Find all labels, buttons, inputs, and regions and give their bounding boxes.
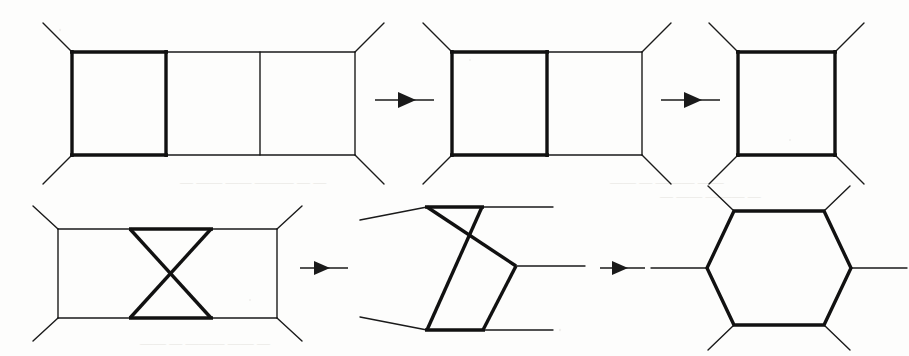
leg-top-right <box>824 186 850 211</box>
diagram-canvas: — —— —— ——— — — —— — ——— —— —— — ——— —— … <box>0 0 909 356</box>
bottom-row <box>33 186 907 350</box>
leg-bottom-right <box>824 325 850 350</box>
bleed-line-2: —— — ——— —— <box>609 174 725 189</box>
paper-speck <box>559 329 561 331</box>
leg-lower-left <box>360 317 427 330</box>
top-row <box>43 23 864 184</box>
leg-top-left <box>423 23 452 52</box>
leg-top-left <box>33 206 58 229</box>
leg-top-right <box>642 23 671 52</box>
crossed-box-legs <box>33 206 302 341</box>
leg-top-right <box>277 206 302 229</box>
leg-upper-left <box>360 207 427 220</box>
crossed-box-thin-frame <box>58 229 277 318</box>
arrow-head-icon <box>398 92 416 108</box>
top-arrow-2 <box>661 92 720 108</box>
bleed-line-1: — —— —— ——— — — <box>179 174 327 189</box>
top-arrow-1 <box>375 92 434 108</box>
bottom-arrow-2 <box>600 261 645 275</box>
paper-speck <box>59 29 61 31</box>
sheared-bold-edges <box>425 207 516 330</box>
hexagon-bold-frame <box>707 211 851 325</box>
leg-bottom-right <box>355 155 384 184</box>
double-box-thin-edges <box>547 52 642 155</box>
figure-root: Diagrammatic reduction sequences Two row… <box>0 0 909 356</box>
paper-bleed-layer: — —— —— ——— — — —— — ——— —— —— — ——— —— … <box>59 29 791 350</box>
hexagon-diagram[interactable] <box>651 186 907 350</box>
single-box-bold-frame <box>736 50 837 157</box>
sheared-pentagon-diagram[interactable] <box>360 207 585 330</box>
paper-speck <box>249 299 251 301</box>
leg-bottom-right <box>835 155 864 184</box>
triple-box-diagram[interactable] <box>43 23 384 184</box>
bleed-line-4: — —— ——— — <box>659 188 762 203</box>
triple-box-bold-cell <box>70 50 168 157</box>
bleed-line-3: —— — ——— —— — <box>139 335 271 350</box>
leg-bottom-left <box>43 155 72 184</box>
double-box-bold-cell <box>450 50 549 157</box>
bold-right-lower <box>483 266 516 330</box>
single-box-diagram[interactable] <box>709 23 864 184</box>
leg-top-right <box>835 23 864 52</box>
crossed-box-bold-cross <box>129 229 213 318</box>
leg-bottom-left <box>708 325 734 350</box>
crossed-box-diagram[interactable] <box>33 206 302 341</box>
leg-bottom-right <box>277 318 302 341</box>
paper-speck <box>469 59 471 61</box>
arrow-head-icon <box>314 261 330 275</box>
single-box-legs <box>709 23 864 184</box>
leg-top-left <box>709 23 738 52</box>
bold-diagonal-across <box>427 207 516 266</box>
leg-top-left <box>43 23 72 52</box>
arrow-head-icon <box>612 261 628 275</box>
triple-box-thin-edges <box>166 52 355 155</box>
paper-speck <box>789 139 791 141</box>
arrow-head-icon <box>684 92 702 108</box>
triple-box-legs <box>43 23 384 184</box>
leg-bottom-left <box>33 318 58 341</box>
leg-bottom-left <box>423 155 452 184</box>
leg-top-right <box>355 23 384 52</box>
bottom-arrow-1 <box>300 261 348 275</box>
double-box-diagram[interactable] <box>423 23 671 184</box>
